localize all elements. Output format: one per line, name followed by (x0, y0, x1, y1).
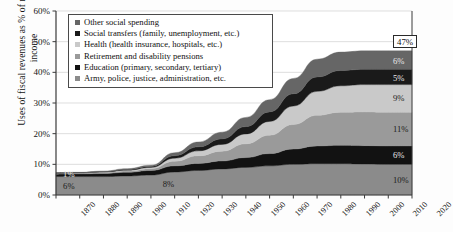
x-tick-label: 2000 (380, 200, 406, 226)
data-label: 6% (393, 56, 404, 66)
legend-swatch-icon (75, 54, 80, 59)
x-tick-label: 1900 (142, 200, 168, 226)
legend-item: Other social spending (73, 17, 268, 28)
x-tick-label: 1870 (71, 200, 97, 226)
x-tick-label: 1920 (190, 200, 216, 226)
legend-label: Education (primary, secondary, tertiary) (84, 62, 221, 73)
x-tick-label: 1980 (332, 200, 358, 226)
chart-legend: Other social spendingSocial transfers (f… (68, 14, 273, 88)
legend-item: Army, police, justice, administration, e… (73, 73, 268, 84)
data-label: 8% (163, 179, 174, 189)
legend-item: Education (primary, secondary, tertiary) (73, 62, 268, 73)
legend-label: Social transfers (family, unemployment, … (84, 28, 239, 39)
data-label: 11% (393, 124, 408, 134)
legend-item: Health (health insurance, hospitals, etc… (73, 39, 268, 50)
legend-label: Other social spending (84, 17, 159, 28)
legend-swatch-icon (75, 65, 80, 70)
legend-swatch-icon (75, 76, 80, 81)
x-tick-label: 1960 (285, 200, 311, 226)
data-label: 5% (393, 73, 404, 83)
data-label: 6% (63, 181, 74, 191)
x-tick-label: 1880 (95, 200, 121, 226)
x-tick-label: 1930 (214, 200, 240, 226)
legend-label: Health (health insurance, hospitals, etc… (84, 39, 222, 50)
legend-item: Retirement and disability pensions (73, 51, 268, 62)
legend-label: Army, police, justice, administration, e… (84, 73, 226, 84)
x-tick-label: 2010 (403, 200, 429, 226)
x-tick-label: 2020 (427, 200, 453, 226)
legend-swatch-icon (75, 42, 80, 47)
data-label: 1% (63, 169, 74, 179)
data-label: 47% (393, 35, 417, 48)
data-label: 10% (393, 175, 409, 185)
data-label: 9% (393, 93, 404, 103)
x-tick-label: 1990 (356, 200, 382, 226)
x-tick-label: 1950 (261, 200, 287, 226)
x-tick-label: 1970 (309, 200, 335, 226)
legend-swatch-icon (75, 31, 80, 36)
legend-item: Social transfers (family, unemployment, … (73, 28, 268, 39)
x-tick-label: 1940 (237, 200, 263, 226)
data-label: 6% (393, 150, 404, 160)
legend-label: Retirement and disability pensions (84, 51, 203, 62)
legend-swatch-icon (75, 20, 80, 25)
x-tick-label: 1910 (166, 200, 192, 226)
x-tick-label: 1890 (119, 200, 145, 226)
